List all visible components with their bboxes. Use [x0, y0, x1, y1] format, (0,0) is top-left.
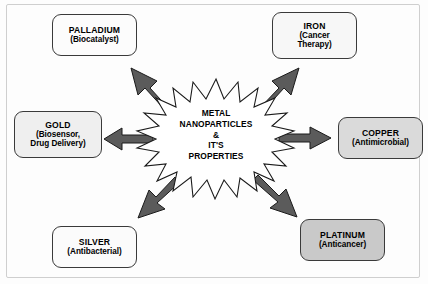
node-copper-property: (Antimicrobial)	[352, 138, 409, 147]
node-platinum[interactable]: PLATINUM (Anticancer)	[300, 219, 385, 261]
node-gold-property: (Biosensor,	[36, 130, 80, 139]
node-gold-property-2: Drug Delivery)	[30, 139, 85, 148]
node-palladium-property: (Biocatalyst)	[70, 35, 119, 44]
node-copper-name: COPPER	[362, 129, 399, 139]
node-palladium[interactable]: PALLADIUM (Biocatalyst)	[52, 14, 137, 56]
arrow-to-silver	[138, 177, 180, 218]
node-silver-name: SILVER	[79, 238, 110, 248]
node-copper[interactable]: COPPER (Antimicrobial)	[338, 117, 423, 159]
node-platinum-property: (Anticancer)	[319, 240, 366, 249]
node-silver-property: (Antibacterial)	[67, 247, 121, 256]
node-palladium-name: PALLADIUM	[69, 26, 120, 36]
node-gold-name: GOLD	[45, 121, 70, 131]
node-iron-name: IRON	[303, 22, 325, 32]
arrow-to-platinum	[253, 175, 297, 217]
node-iron-property-2: Therapy)	[297, 40, 331, 49]
node-silver[interactable]: SILVER (Antibacterial)	[52, 226, 137, 268]
node-iron-property: (Cancer	[299, 31, 329, 40]
diagram-canvas: METAL NANOPARTICLES & IT'S PROPERTIES PA…	[0, 0, 428, 284]
node-platinum-name: PLATINUM	[320, 231, 365, 241]
node-iron[interactable]: IRON (Cancer Therapy)	[272, 12, 357, 59]
node-gold[interactable]: GOLD (Biosensor, Drug Delivery)	[14, 111, 102, 158]
